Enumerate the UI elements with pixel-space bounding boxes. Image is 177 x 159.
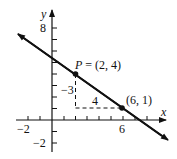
rise-label: −3 xyxy=(61,83,74,97)
coordinate-plane: y x 8 −2 −2 6 P = (2, 4) (6, 1) −3 4 xyxy=(0,0,177,159)
run-label: 4 xyxy=(92,94,98,108)
x-tick-label-6: 6 xyxy=(119,122,125,136)
y-tick-label-neg2: −2 xyxy=(33,136,46,150)
point-p xyxy=(73,71,79,77)
point-p-label: P = (2, 4) xyxy=(74,58,121,72)
y-tick-label-8: 8 xyxy=(40,21,46,35)
point-6-1 xyxy=(119,105,125,111)
x-tick-label-neg2: −2 xyxy=(17,122,30,136)
y-axis xyxy=(52,10,57,152)
x-axis-label: x xyxy=(160,105,167,119)
point-6-1-label: (6, 1) xyxy=(126,93,152,107)
x-axis xyxy=(16,116,166,120)
y-axis-label: y xyxy=(40,7,47,21)
point-p-coords: = (2, 4) xyxy=(82,58,121,72)
